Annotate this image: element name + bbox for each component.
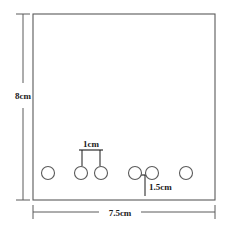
hole-6: [180, 167, 193, 180]
hole-1: [42, 167, 55, 180]
diagram-canvas: 8cm 7.5cm 1cm 1.5cm: [0, 0, 235, 228]
height-dimension: 8cm: [15, 14, 31, 200]
height-dimension-label: 8cm: [15, 91, 31, 101]
edge-offset-dimension-label: 1.5cm: [149, 182, 172, 192]
hole-3: [95, 167, 108, 180]
width-dimension-label: 7.5cm: [109, 208, 132, 218]
technical-drawing: 8cm 7.5cm 1cm 1.5cm: [0, 0, 235, 228]
hole-2: [75, 167, 88, 180]
hole-gap-dimension-label: 1cm: [83, 139, 99, 149]
width-dimension: 7.5cm: [33, 205, 215, 219]
hole-4: [129, 167, 142, 180]
hole-5: [146, 167, 159, 180]
